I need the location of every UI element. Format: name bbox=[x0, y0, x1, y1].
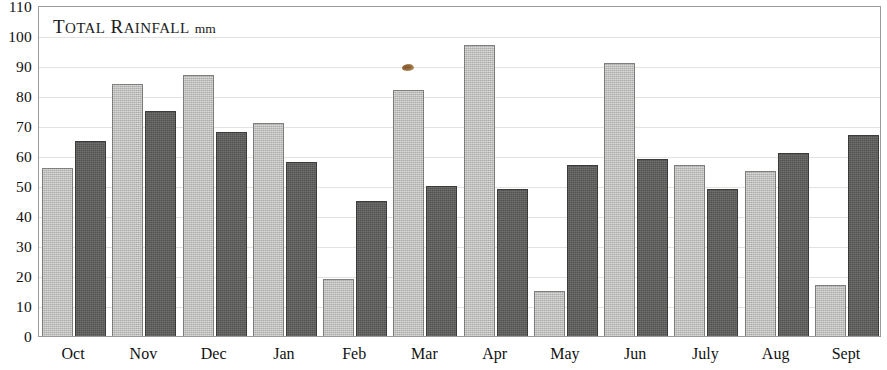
y-axis-tick-0: 0 bbox=[24, 329, 32, 345]
x-axis-tick-oct: Oct bbox=[38, 346, 108, 362]
x-axis-tick-july: July bbox=[670, 346, 740, 362]
bar-sept-series2[interactable] bbox=[848, 135, 879, 336]
y-axis-tick-100: 100 bbox=[8, 29, 32, 45]
bar-group-jan bbox=[250, 7, 320, 336]
plot-area: TOTAL RAINFALL mm bbox=[38, 6, 881, 337]
bar-nov-series2[interactable] bbox=[145, 111, 176, 336]
bar-group-july bbox=[671, 7, 741, 336]
y-axis-tick-90: 90 bbox=[16, 59, 32, 75]
y-axis-tick-40: 40 bbox=[16, 209, 32, 225]
bar-jun-series2[interactable] bbox=[637, 159, 668, 336]
y-axis-tick-50: 50 bbox=[16, 179, 32, 195]
bar-mar-series1[interactable] bbox=[393, 90, 424, 336]
x-axis-tick-jun: Jun bbox=[600, 346, 670, 362]
bar-july-series2[interactable] bbox=[707, 189, 738, 336]
bar-group-aug bbox=[742, 7, 812, 336]
bar-dec-series2[interactable] bbox=[216, 132, 247, 336]
bar-jan-series2[interactable] bbox=[286, 162, 317, 336]
bar-oct-series2[interactable] bbox=[75, 141, 106, 336]
y-axis-tick-110: 110 bbox=[9, 0, 32, 15]
y-axis-tick-10: 10 bbox=[16, 299, 32, 315]
bar-apr-series1[interactable] bbox=[464, 45, 495, 336]
rainfall-bar-chart: 1101009080706050403020100 TOTAL RAINFALL… bbox=[0, 0, 887, 370]
y-axis-tick-20: 20 bbox=[16, 269, 32, 285]
scan-artifact-speck bbox=[402, 64, 414, 71]
x-axis-tick-feb: Feb bbox=[319, 346, 389, 362]
x-axis-tick-jan: Jan bbox=[249, 346, 319, 362]
x-axis-tick-apr: Apr bbox=[460, 346, 530, 362]
x-axis-tick-nov: Nov bbox=[108, 346, 178, 362]
bar-jan-series1[interactable] bbox=[253, 123, 284, 336]
bar-oct-series1[interactable] bbox=[42, 168, 73, 336]
x-axis-tick-aug: Aug bbox=[741, 346, 811, 362]
y-axis-tick-70: 70 bbox=[16, 119, 32, 135]
bar-group-nov bbox=[109, 7, 179, 336]
bar-group-feb bbox=[320, 7, 390, 336]
x-axis-tick-dec: Dec bbox=[179, 346, 249, 362]
bar-group-dec bbox=[180, 7, 250, 336]
y-axis-tick-30: 30 bbox=[16, 239, 32, 255]
bar-group-sept bbox=[812, 7, 881, 336]
x-axis-tick-sept: Sept bbox=[811, 346, 881, 362]
bar-group-apr bbox=[461, 7, 531, 336]
bar-feb-series1[interactable] bbox=[323, 279, 354, 336]
y-axis: 1101009080706050403020100 bbox=[0, 0, 36, 345]
bar-dec-series1[interactable] bbox=[183, 75, 214, 336]
bar-group-mar bbox=[390, 7, 460, 336]
bar-mar-series2[interactable] bbox=[426, 186, 457, 336]
bar-group-jun bbox=[601, 7, 671, 336]
bar-jun-series1[interactable] bbox=[604, 63, 635, 336]
bar-july-series1[interactable] bbox=[674, 165, 705, 336]
x-axis-tick-may: May bbox=[530, 346, 600, 362]
bar-nov-series1[interactable] bbox=[112, 84, 143, 336]
bar-group-oct bbox=[39, 7, 109, 336]
bars-layer bbox=[39, 7, 880, 336]
bar-apr-series2[interactable] bbox=[497, 189, 528, 336]
x-axis-tick-mar: Mar bbox=[389, 346, 459, 362]
bar-may-series1[interactable] bbox=[534, 291, 565, 336]
bar-group-may bbox=[531, 7, 601, 336]
bar-feb-series2[interactable] bbox=[356, 201, 387, 336]
bar-aug-series2[interactable] bbox=[778, 153, 809, 336]
bar-sept-series1[interactable] bbox=[815, 285, 846, 336]
x-axis: OctNovDecJanFebMarAprMayJunJulyAugSept bbox=[38, 340, 881, 370]
bar-may-series2[interactable] bbox=[567, 165, 598, 336]
bar-aug-series1[interactable] bbox=[745, 171, 776, 336]
y-axis-tick-60: 60 bbox=[16, 149, 32, 165]
y-axis-tick-80: 80 bbox=[16, 89, 32, 105]
